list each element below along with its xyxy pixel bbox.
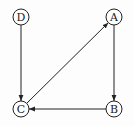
node-b: B [106, 101, 122, 117]
node-label: D [17, 11, 26, 24]
node-d: D [13, 9, 29, 25]
node-label: C [17, 103, 25, 116]
edge-c-to-a [27, 23, 109, 104]
node-c: C [13, 101, 29, 117]
node-label: A [109, 11, 119, 24]
node-label: B [110, 103, 118, 116]
node-a: A [106, 9, 122, 25]
directed-graph: DACB [0, 0, 134, 126]
